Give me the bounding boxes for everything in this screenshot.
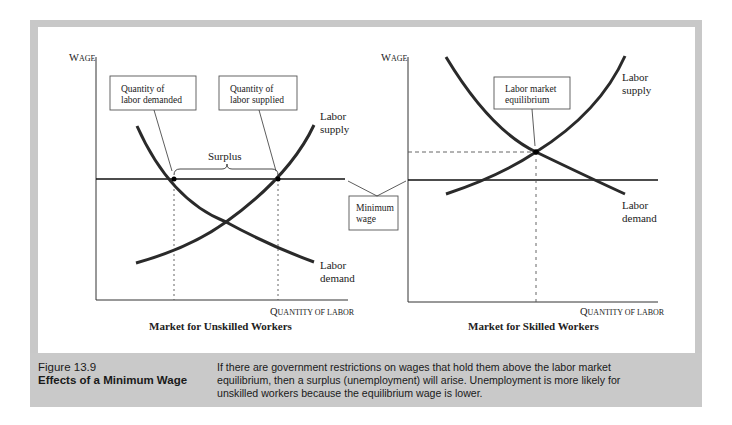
qd-point <box>172 177 177 182</box>
chart-title-skilled: Market for Skilled Workers <box>468 320 599 332</box>
supply-label-1: Labor <box>320 110 347 122</box>
equilibrium-point <box>533 149 539 155</box>
supply-label-2: supply <box>320 123 350 135</box>
min-wage-pointer-right <box>377 181 406 196</box>
supply-label-1: Labor <box>622 71 649 83</box>
wage-axis-label: WAGE <box>69 52 95 63</box>
surplus-label: Surplus <box>208 150 242 162</box>
demand-label-1: Labor <box>320 259 347 271</box>
qs-label-2: labor supplied <box>230 95 284 105</box>
minimum-wage-label-1: Minimum <box>356 203 395 213</box>
figure-number: Figure 13.9 <box>38 361 187 374</box>
qs-point <box>276 177 281 182</box>
figure-title: Effects of a Minimum Wage <box>38 374 187 387</box>
demand-label-2: demand <box>622 212 657 224</box>
min-wage-pointer-left <box>348 181 377 196</box>
supply-label-2: supply <box>622 84 652 96</box>
quantity-axis-label: QUANTITY OF LABOR <box>580 306 665 317</box>
demand-label-1: Labor <box>622 199 649 211</box>
eq-label-1: Labor market <box>505 84 557 94</box>
demand-label-2: demand <box>320 272 355 284</box>
minimum-wage-label-2: wage <box>356 214 376 224</box>
surplus-brace <box>174 164 278 175</box>
qd-label-1: Quantity of <box>121 84 165 94</box>
quantity-axis-label: QUANTITY OF LABOR <box>270 306 355 317</box>
figure-caption-text: If there are government restrictions on … <box>217 361 662 400</box>
wage-axis-label: WAGE <box>381 52 407 63</box>
qs-label-1: Quantity of <box>230 84 274 94</box>
minimum-wage-annotation: Minimum wage <box>348 181 406 230</box>
eq-label-2: equilibrium <box>505 95 550 105</box>
minimum-wage-box <box>349 196 398 230</box>
qd-label-2: labor demanded <box>121 95 182 105</box>
chart-title-unskilled: Market for Unskilled Workers <box>149 320 293 332</box>
figure-caption-heading: Figure 13.9 Effects of a Minimum Wage <box>38 361 187 387</box>
